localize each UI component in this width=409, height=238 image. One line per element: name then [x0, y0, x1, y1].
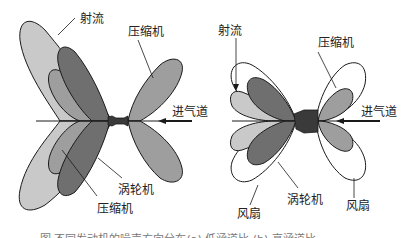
noise-directivity-figure: 射流 压缩机 进气道 涡轮机 压缩机 射流 压缩 — [0, 0, 409, 238]
right-compressor-leader — [318, 52, 336, 88]
left-label-compressor-bottom: 压缩机 — [97, 201, 133, 216]
left-turbine-leader — [98, 158, 122, 178]
right-label-jet: 射流 — [218, 23, 242, 38]
left-label-inlet: 进气道 — [172, 104, 208, 119]
figure-caption: 图 不同发动机的噪声方向分布(a) 低涵道比 (b) 高涵道比 — [40, 232, 316, 238]
right-turbine-leader — [278, 162, 298, 188]
left-diagram: 射流 压缩机 进气道 涡轮机 压缩机 — [19, 11, 208, 216]
right-diagram: 射流 压缩机 进气道 涡轮机 风扇 风扇 — [218, 23, 397, 221]
right-label-turbine: 涡轮机 — [287, 193, 323, 207]
right-label-compressor: 压缩机 — [318, 35, 354, 50]
right-engine-body — [294, 110, 318, 133]
left-label-jet: 射流 — [80, 11, 104, 26]
right-label-fan-left: 风扇 — [237, 206, 261, 221]
right-fan-left-leader — [250, 185, 258, 205]
left-compressor-top-leader — [138, 40, 153, 78]
right-label-inlet: 进气道 — [361, 104, 397, 119]
left-inlet-arrowhead — [158, 118, 166, 124]
left-label-turbine: 涡轮机 — [118, 183, 154, 197]
left-engine-body — [108, 116, 128, 126]
right-inlet-arrowhead — [336, 118, 344, 124]
right-label-fan-right: 风扇 — [346, 198, 370, 213]
left-jet-leader — [58, 18, 75, 35]
left-label-compressor-top: 压缩机 — [128, 24, 164, 39]
left-compressor-lobe-front-bottom — [128, 121, 182, 182]
